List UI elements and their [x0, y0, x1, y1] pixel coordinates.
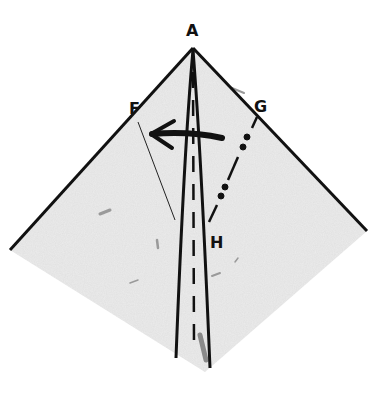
point-label-G: G — [254, 99, 267, 115]
diagram-canvas — [0, 0, 376, 393]
origami-diagram: A F G H — [0, 0, 376, 393]
point-label-A: A — [186, 23, 198, 39]
point-label-F: F — [129, 101, 140, 117]
point-label-H: H — [210, 235, 223, 251]
